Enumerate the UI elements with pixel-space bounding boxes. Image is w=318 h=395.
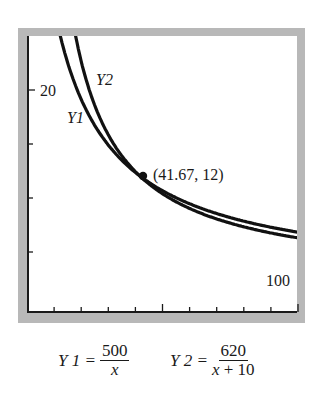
chart-svg (0, 0, 318, 395)
formula-row: Y 1 = 500 x Y 2 = 620 x + 10 (0, 340, 318, 384)
series-label-y2: Y2 (96, 72, 113, 88)
formula-y2-den-rest: + 10 (219, 360, 254, 379)
y-tick-label-20: 20 (40, 83, 56, 99)
curves (59, 5, 299, 238)
formula-y2: Y 2 = 620 x + 10 (170, 342, 255, 379)
formula-y1: Y 1 = 500 x (58, 342, 129, 379)
intersection-label: (41.67, 12) (153, 167, 224, 183)
formula-y1-denominator: x (111, 361, 119, 379)
formula-y2-numerator: 620 (219, 342, 249, 361)
formula-y1-fraction: 500 x (100, 342, 130, 379)
formula-y2-fraction: 620 x + 10 (212, 342, 255, 379)
x-tick-label-100: 100 (266, 273, 290, 289)
formula-y2-denominator: x + 10 (212, 361, 255, 379)
formula-y1-lhs: Y 1 = (58, 351, 96, 371)
formula-y2-lhs: Y 2 = (170, 351, 208, 371)
series-label-y1: Y1 (67, 110, 84, 126)
formula-y1-numerator: 500 (100, 342, 130, 361)
intersection-point (139, 172, 147, 180)
